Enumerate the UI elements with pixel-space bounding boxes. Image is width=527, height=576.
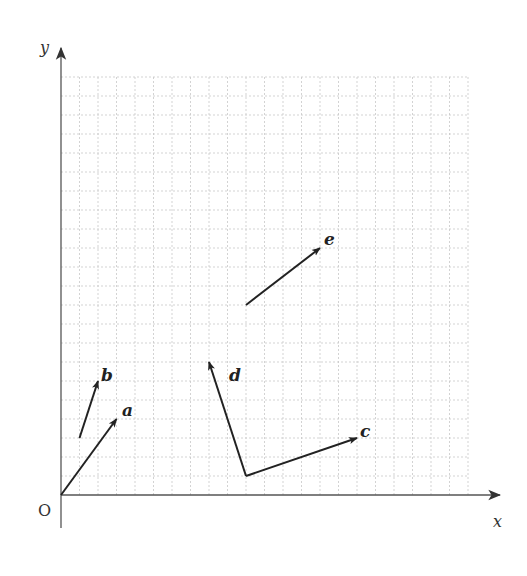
y-axis-label: y: [39, 38, 50, 57]
origin-label: O: [38, 501, 51, 520]
x-axis-label: x: [493, 512, 502, 531]
vector-c-label: c: [360, 421, 371, 441]
vector-b-label: b: [101, 365, 113, 385]
grid-lines: [61, 77, 468, 495]
vector-diagram: x y O a b c d e: [0, 0, 527, 576]
vector-d-label: d: [229, 365, 241, 385]
vector-a-label: a: [122, 400, 133, 420]
vector-b: [80, 381, 99, 438]
vector-e: [246, 248, 320, 305]
diagram-canvas: x y O a b c d e: [0, 0, 527, 576]
vector-e-label: e: [324, 229, 335, 249]
